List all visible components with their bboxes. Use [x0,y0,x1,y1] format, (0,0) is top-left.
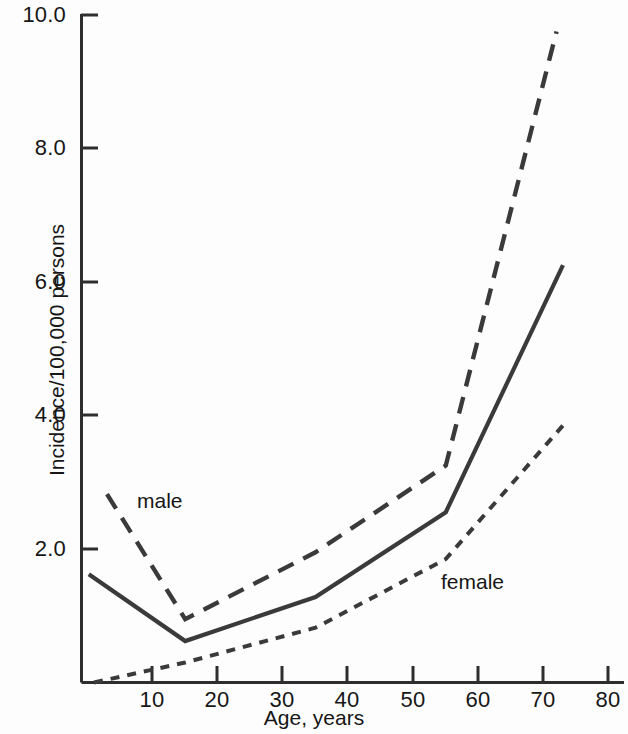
series-line-female [94,425,563,682]
x-axis-ticks [152,666,608,682]
y-axis-title: Incidence/100,000 persons [45,200,69,500]
y-axis-ticks [81,15,98,549]
series-annotation-male: male [137,489,183,513]
x-axis-title: Age, years [0,706,628,730]
y-tick-label-8: 8.0 [0,135,66,161]
y-tick-label-2: 2.0 [0,536,66,562]
incidence-by-age-chart: 10.0 8.0 6.0 4.0 2.0 10 20 30 40 50 60 7… [0,0,628,734]
series-annotation-female: female [441,570,504,594]
series-line-male [107,32,557,620]
chart-plot-area [0,0,628,734]
y-tick-label-10: 10.0 [0,2,66,28]
